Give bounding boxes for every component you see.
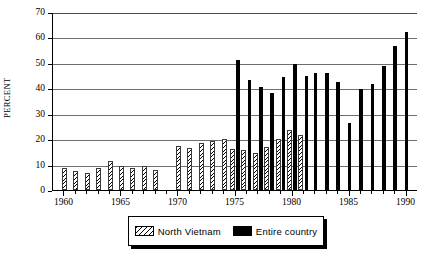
x-axis: 1960196519701975198019851990 xyxy=(52,191,417,213)
bar-entire-country-1988 xyxy=(382,66,386,190)
x-tick-mark-1988 xyxy=(383,191,384,194)
bar-north-vietnam-1976 xyxy=(241,150,246,190)
bar-north-vietnam-1967 xyxy=(142,166,147,190)
x-tick-mark-1976 xyxy=(246,191,247,194)
y-tick-label-10: 10 xyxy=(25,161,45,171)
y-tick-mark-40 xyxy=(48,89,52,90)
hatch-swatch-icon xyxy=(135,226,154,236)
x-tick-mark-1989 xyxy=(394,191,395,194)
x-tick-mark-1972 xyxy=(200,191,201,194)
y-tick-label-20: 20 xyxy=(25,135,45,145)
x-tick-mark-1970 xyxy=(177,191,178,196)
bar-north-vietnam-1964 xyxy=(108,161,113,190)
bar-north-vietnam-1975 xyxy=(230,149,235,190)
bar-entire-country-1981 xyxy=(305,76,309,190)
bar-entire-country-1980 xyxy=(293,64,297,190)
x-tick-mark-1966 xyxy=(132,191,133,194)
bar-entire-country-1979 xyxy=(282,77,286,190)
x-tick-mark-1983 xyxy=(326,191,327,194)
y-tick-label-30: 30 xyxy=(25,110,45,120)
plot-area xyxy=(52,13,417,191)
y-tick-label-0: 0 xyxy=(25,186,45,196)
y-tick-label-40: 40 xyxy=(25,84,45,94)
x-tick-label-1970: 1970 xyxy=(168,197,187,207)
x-tick-mark-1982 xyxy=(314,191,315,194)
x-tick-mark-1963 xyxy=(98,191,99,194)
x-tick-mark-1968 xyxy=(155,191,156,194)
x-tick-mark-1979 xyxy=(280,191,281,194)
x-tick-mark-1975 xyxy=(235,191,236,196)
x-tick-label-1990: 1990 xyxy=(396,197,415,207)
bar-north-vietnam-1963 xyxy=(96,168,101,190)
bar-north-vietnam-1977 xyxy=(253,153,258,190)
y-axis-title: PERCENT xyxy=(2,58,16,138)
bar-entire-country-1978 xyxy=(270,93,274,190)
y-tick-mark-30 xyxy=(48,115,52,116)
x-tick-mark-1990 xyxy=(406,191,407,196)
chart-legend: North Vietnam Entire country xyxy=(128,216,324,246)
x-tick-mark-1961 xyxy=(75,191,76,194)
bar-entire-country-1977 xyxy=(259,87,263,190)
x-tick-mark-1965 xyxy=(120,191,121,196)
x-tick-mark-1986 xyxy=(360,191,361,194)
legend-label-north-vietnam: North Vietnam xyxy=(158,226,221,237)
y-tick-mark-20 xyxy=(48,140,52,141)
y-tick-mark-50 xyxy=(48,64,52,65)
bar-north-vietnam-1960 xyxy=(62,168,67,190)
bars-layer xyxy=(53,13,417,190)
bar-north-vietnam-1978 xyxy=(264,147,269,190)
x-tick-mark-1974 xyxy=(223,191,224,194)
x-tick-mark-1969 xyxy=(166,191,167,194)
bar-chart: PERCENT 010203040506070 1960196519701975… xyxy=(0,0,427,254)
x-tick-mark-1962 xyxy=(86,191,87,194)
bar-entire-country-1990 xyxy=(405,32,409,190)
bar-entire-country-1987 xyxy=(371,84,375,190)
bar-entire-country-1985 xyxy=(348,123,352,190)
x-tick-mark-1980 xyxy=(292,191,293,196)
x-tick-mark-1987 xyxy=(371,191,372,194)
x-tick-mark-1971 xyxy=(189,191,190,194)
bar-entire-country-1982 xyxy=(314,73,318,190)
legend-label-entire-country: Entire country xyxy=(256,226,317,237)
bar-entire-country-1986 xyxy=(359,89,363,190)
x-tick-mark-1964 xyxy=(109,191,110,194)
bar-north-vietnam-1968 xyxy=(153,170,158,190)
bar-entire-country-1984 xyxy=(336,82,340,190)
bar-north-vietnam-1979 xyxy=(276,139,281,190)
x-tick-mark-1984 xyxy=(337,191,338,194)
bar-entire-country-1983 xyxy=(325,73,329,190)
solid-swatch-icon xyxy=(233,226,252,236)
x-tick-label-1975: 1975 xyxy=(225,197,244,207)
bar-entire-country-1975 xyxy=(236,60,240,190)
bar-north-vietnam-1974 xyxy=(222,139,227,190)
bar-north-vietnam-1973 xyxy=(210,141,215,190)
x-tick-label-1965: 1965 xyxy=(111,197,130,207)
bar-north-vietnam-1966 xyxy=(130,168,135,190)
x-tick-label-1980: 1980 xyxy=(282,197,301,207)
x-tick-mark-1967 xyxy=(143,191,144,194)
y-tick-label-60: 60 xyxy=(25,33,45,43)
x-tick-label-1985: 1985 xyxy=(339,197,358,207)
bar-entire-country-1976 xyxy=(248,80,252,190)
bar-entire-country-1989 xyxy=(393,46,397,190)
x-tick-mark-1978 xyxy=(269,191,270,194)
legend-item-north-vietnam: North Vietnam xyxy=(135,226,221,237)
y-tick-label-50: 50 xyxy=(25,59,45,69)
x-tick-mark-1981 xyxy=(303,191,304,194)
bar-north-vietnam-1970 xyxy=(176,146,181,190)
bar-north-vietnam-1962 xyxy=(85,173,90,190)
x-tick-mark-1985 xyxy=(349,191,350,196)
y-tick-mark-60 xyxy=(48,38,52,39)
x-tick-mark-1973 xyxy=(212,191,213,194)
bar-north-vietnam-1981 xyxy=(298,135,303,190)
x-tick-label-1960: 1960 xyxy=(54,197,73,207)
y-tick-label-70: 70 xyxy=(25,8,45,18)
legend-item-entire-country: Entire country xyxy=(233,226,317,237)
y-tick-mark-70 xyxy=(48,13,52,14)
y-tick-mark-10 xyxy=(48,166,52,167)
x-tick-mark-1960 xyxy=(63,191,64,196)
x-tick-mark-1977 xyxy=(257,191,258,194)
bar-north-vietnam-1961 xyxy=(73,171,78,190)
bar-north-vietnam-1972 xyxy=(199,143,204,190)
bar-north-vietnam-1971 xyxy=(187,148,192,190)
